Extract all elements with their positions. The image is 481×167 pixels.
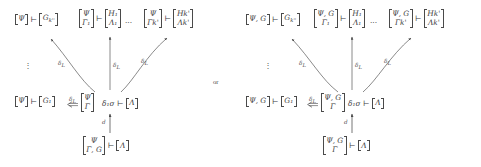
sequent-succedent: Λ bbox=[358, 140, 371, 151]
sequent-succedent: G₁ bbox=[281, 96, 297, 107]
left-arrow-label-3: δL bbox=[141, 58, 148, 66]
left-arrow-label-4: δL bbox=[69, 96, 76, 104]
right-bottom-node-g: Ψ, G Γ ⊢ Λ bbox=[322, 136, 371, 155]
sequent-succedent: G₁ bbox=[39, 96, 55, 107]
sequent-succedent: H₁ Λ₁ bbox=[105, 9, 122, 28]
right-mid-node-e: Ψ, G Γ bbox=[320, 93, 345, 112]
sequent-antecedent: Ψ bbox=[15, 96, 29, 107]
right-top-node-c: Ψ, G Γk' ⊢ Hk' Λk' bbox=[388, 9, 444, 28]
left-top-node-b: Ψ Γ₁ ⊢ H₁ Λ₁ bbox=[78, 9, 122, 28]
turnstile-icon: ⊢ bbox=[272, 16, 279, 24]
delta-sigma-label: δ₁σ bbox=[102, 100, 114, 107]
subscript: k'' bbox=[290, 18, 296, 24]
turnstile-icon: ⊢ bbox=[108, 142, 115, 150]
left-mid-node-e: Ψ Γ bbox=[80, 93, 95, 112]
sequent-succedent: Λ bbox=[116, 140, 129, 151]
sequent-antecedent: Ψ Γ bbox=[81, 93, 95, 112]
subscript: k'' bbox=[49, 18, 55, 24]
turnstile-icon: ⊢ bbox=[340, 15, 347, 23]
sequent-succedent: Hk' Λk' bbox=[424, 9, 444, 28]
right-mid-sigma: δ₁σ ⊢ Λ bbox=[347, 98, 385, 109]
sequent-succedent: Gk'' bbox=[281, 13, 300, 26]
left-vertical-ellipsis: ⋮ bbox=[24, 62, 32, 70]
sequent-antecedent: Ψ, G bbox=[246, 96, 270, 107]
sequent-antecedent: Ψ Γ₁ bbox=[79, 9, 94, 28]
turnstile-icon: ⊢ bbox=[30, 16, 37, 24]
right-top-node-b: Ψ, G Γ₁ ⊢ H₁ Λ₁ bbox=[313, 9, 366, 28]
sequent-antecedent: Ψ, G Γk' bbox=[389, 9, 413, 28]
sequent-succedent: Hk' Λk' bbox=[173, 9, 193, 28]
turnstile-icon: ⊢ bbox=[117, 100, 124, 108]
turnstile-icon: ⊢ bbox=[96, 15, 103, 23]
sequent-antecedent: Ψ bbox=[15, 14, 29, 25]
left-top-node-a: Ψ ⊢ Gk'' bbox=[14, 13, 59, 26]
or-connector: or bbox=[213, 78, 219, 85]
delta-sigma-label: δ₁σ bbox=[348, 100, 360, 107]
right-arrow-label-d: d bbox=[344, 119, 348, 125]
right-arrow-label-4: δL bbox=[309, 96, 316, 104]
sequent-antecedent: Ψ, G Γ bbox=[323, 136, 347, 155]
turnstile-icon: ⊢ bbox=[415, 15, 422, 23]
turnstile-icon: ⊢ bbox=[30, 98, 37, 106]
left-arrow-label-d: d bbox=[102, 119, 106, 125]
proof-diagram-figure: Ψ ⊢ Gk'' Ψ Γ₁ ⊢ H₁ Λ₁ ··· Ψ Γk' ⊢ Hk' Λk… bbox=[0, 0, 481, 167]
right-arrow-label-3: δL bbox=[384, 58, 391, 66]
sequent-succedent: H₁ Λ₁ bbox=[349, 9, 366, 28]
left-top-ellipsis: ··· bbox=[125, 18, 132, 27]
turnstile-icon: ⊢ bbox=[349, 142, 356, 150]
sequent-antecedent: Ψ Γk' bbox=[144, 9, 163, 28]
turnstile-icon: ⊢ bbox=[272, 98, 279, 106]
sequent-succedent: Λ bbox=[126, 98, 139, 109]
sequent-antecedent: Ψ Γ, G bbox=[83, 136, 106, 155]
turnstile-icon: ⊢ bbox=[363, 100, 370, 108]
left-mid-node-d: Ψ ⊢ G₁ bbox=[14, 96, 56, 107]
right-vertical-ellipsis: ⋮ bbox=[264, 62, 272, 70]
left-arrow-label-2: δL bbox=[113, 62, 120, 70]
right-top-ellipsis: ··· bbox=[370, 18, 377, 27]
right-mid-node-d: Ψ, G ⊢ G₁ bbox=[245, 96, 297, 107]
left-mid-sigma: δ₁σ ⊢ Λ bbox=[101, 98, 139, 109]
left-bottom-node-g: Ψ Γ, G ⊢ Λ bbox=[82, 136, 129, 155]
sequent-antecedent: Ψ, G Γ₁ bbox=[314, 9, 338, 28]
sequent-succedent: Λ bbox=[372, 98, 385, 109]
left-arrow-label-1: δL bbox=[58, 60, 65, 68]
turnstile-icon: ⊢ bbox=[165, 15, 172, 23]
sequent-succedent: Gk'' bbox=[39, 13, 58, 26]
right-arrow-label-2: δL bbox=[355, 62, 362, 70]
left-top-node-c: Ψ Γk' ⊢ Hk' Λk' bbox=[143, 9, 194, 28]
sequent-antecedent: Ψ, G bbox=[246, 14, 270, 25]
sequent-antecedent: Ψ, G Γ bbox=[321, 93, 345, 112]
right-top-node-a: Ψ, G ⊢ Gk'' bbox=[245, 13, 300, 26]
right-arrow-label-1: δL bbox=[299, 60, 306, 68]
